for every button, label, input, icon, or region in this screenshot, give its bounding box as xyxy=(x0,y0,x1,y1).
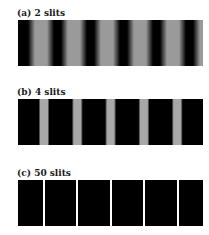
fringe-pattern-4-slits xyxy=(18,99,203,145)
label-50-slits: (c) 50 slits xyxy=(17,168,71,178)
label-2-slits: (a) 2 slits xyxy=(17,8,65,18)
fringe-pattern-50-slits xyxy=(18,180,203,226)
label-4-slits: (b) 4 slits xyxy=(17,87,65,97)
fringe-pattern-2-slits xyxy=(18,20,203,66)
